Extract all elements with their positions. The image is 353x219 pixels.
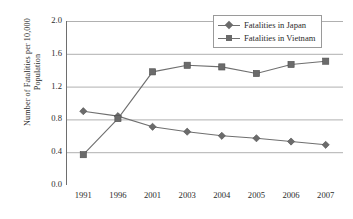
fatalities-line-chart: Number of Fatalities per 10,000 Populati… [0,0,353,219]
legend-label: Fatalities in Vietnam [244,33,315,43]
legend-diamond-marker-icon [218,20,240,31]
y-axis-tick-label: 0.4 [32,147,62,156]
y-axis-tick-label: 2.0 [32,16,62,25]
y-axis-tick-label: 0.8 [32,114,62,123]
data-point-square [253,70,259,76]
legend-label: Fatalities in Japan [244,20,306,30]
data-point-diamond [149,123,156,130]
data-point-square [288,61,294,67]
data-point-square [115,115,121,121]
y-axis-tick-label: 1.2 [32,82,62,91]
data-point-square [149,69,155,75]
y-axis-tick-label: 0.0 [32,180,62,189]
legend-entry[interactable]: Fatalities in Japan [218,19,315,31]
data-point-diamond [80,108,87,115]
legend-square-marker-icon [218,33,240,44]
data-point-square [323,58,329,64]
data-point-diamond [184,128,191,135]
data-point-diamond [287,138,294,145]
data-point-square [80,152,86,158]
data-point-diamond [218,132,225,139]
y-axis-tick-labels: 0.00.40.81.21.62.0 [30,0,62,219]
x-axis-tick-label: 2007 [306,190,346,200]
data-point-diamond [253,135,260,142]
y-axis-tick-label: 1.6 [32,49,62,58]
chart-legend: Fatalities in JapanFatalities in Vietnam [213,15,322,48]
data-point-square [219,64,225,70]
legend-entry[interactable]: Fatalities in Vietnam [218,32,315,44]
data-point-diamond [322,141,329,148]
x-axis-tick-labels: 19911996200120032004200520062007 [66,190,343,210]
data-point-square [184,62,190,68]
